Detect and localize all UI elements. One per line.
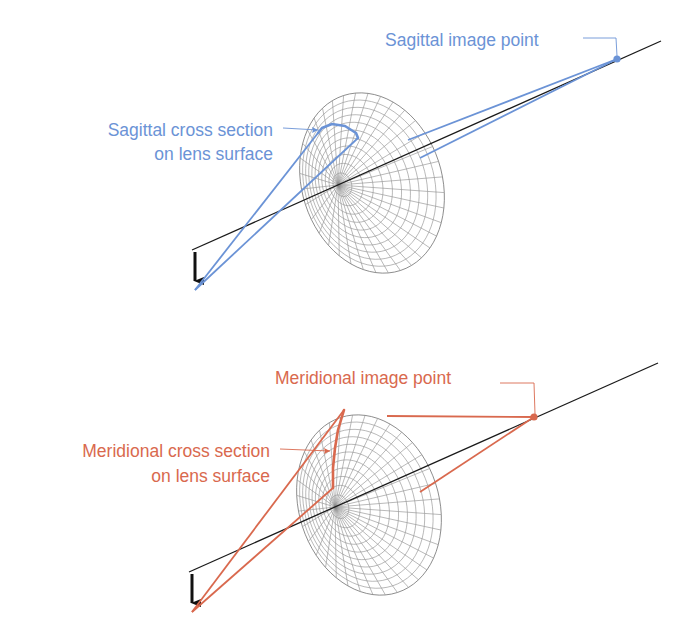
ray bbox=[192, 488, 333, 612]
meridional-image-point bbox=[530, 413, 537, 420]
lens-mesh bbox=[297, 415, 442, 595]
sagittal-panel: Sagittal image point Sagittal cross sect… bbox=[108, 30, 661, 290]
lens-mesh bbox=[300, 93, 445, 273]
rays-back bbox=[408, 59, 617, 158]
sagittal-cross-section bbox=[318, 124, 358, 138]
sagittal-image-point bbox=[613, 55, 620, 62]
lens-spoke bbox=[338, 185, 339, 256]
lens-ring bbox=[300, 93, 445, 273]
ray bbox=[420, 59, 617, 158]
lens-spoke bbox=[329, 185, 338, 245]
lens-ring bbox=[309, 444, 408, 567]
lens-spoke bbox=[335, 483, 436, 507]
ray bbox=[420, 417, 534, 492]
lens-spoke bbox=[335, 418, 378, 507]
lens-spoke bbox=[338, 185, 363, 270]
meridional-image-point-label: Meridional image point bbox=[275, 368, 451, 388]
sagittal-cross-section-label-line2: on lens surface bbox=[154, 144, 273, 164]
lens-spoke bbox=[335, 432, 402, 507]
lens-ring bbox=[318, 138, 392, 230]
image-point-leader bbox=[500, 383, 535, 414]
sagittal-cross-section-label: Sagittal cross section bbox=[108, 120, 273, 140]
lens-spoke bbox=[303, 143, 338, 185]
lens-ring bbox=[300, 422, 433, 588]
lens-ring bbox=[312, 122, 411, 245]
meridional-cross-section-label: Meridional cross section bbox=[82, 441, 270, 461]
lens-spoke bbox=[335, 507, 360, 592]
lens-spoke bbox=[335, 507, 441, 515]
ray bbox=[387, 416, 534, 417]
image-point-leader bbox=[583, 38, 617, 56]
lens-aberration-diagram: Sagittal image point Sagittal cross sect… bbox=[0, 0, 694, 639]
lens-spoke bbox=[338, 161, 439, 185]
sagittal-image-point-label: Sagittal image point bbox=[385, 30, 539, 50]
lens-spoke bbox=[326, 507, 335, 567]
lens-ring bbox=[297, 415, 442, 595]
lens-spoke bbox=[338, 96, 381, 185]
lens-ring bbox=[303, 429, 425, 581]
lens-ring bbox=[315, 460, 389, 552]
lens-ring bbox=[306, 107, 428, 259]
lens-ring bbox=[303, 100, 436, 266]
ray bbox=[408, 59, 617, 140]
lens-spoke bbox=[335, 507, 336, 578]
meridional-panel: Meridional image point Meridional cross … bbox=[82, 363, 658, 612]
meridional-cross-section-label-line2: on lens surface bbox=[151, 466, 270, 486]
lens-spoke bbox=[338, 185, 444, 193]
